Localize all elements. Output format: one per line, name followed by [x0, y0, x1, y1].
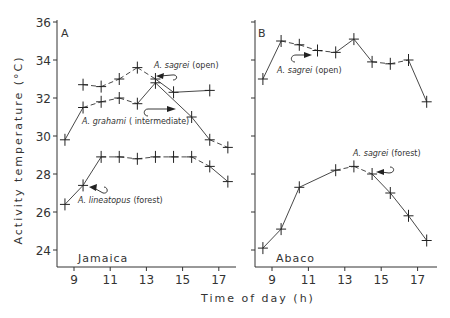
series-segment	[281, 187, 299, 229]
x-tick-label: 11	[301, 273, 316, 287]
annotation-b-sagrei-forest: A. sagrei(forest)	[352, 149, 421, 175]
series-segment	[83, 157, 101, 186]
arrowhead-icon	[156, 73, 164, 79]
series-segment	[354, 166, 372, 174]
panel-b-site-label: Abaco	[276, 252, 315, 265]
series-segment	[390, 193, 408, 216]
series-segment	[101, 98, 119, 102]
svg-text:A. sagrei(open): A. sagrei(open)	[153, 61, 219, 70]
series-segment	[137, 68, 155, 79]
series-a-sagrei-forest	[258, 160, 432, 254]
annotation-a-lineatopus: A. lineatopus(forest)	[77, 184, 163, 205]
panel-b-letter: B	[258, 27, 266, 40]
series-segment	[210, 140, 228, 148]
series-segment	[390, 60, 408, 64]
x-tick-label: 13	[337, 273, 352, 287]
arrow-icon	[144, 109, 170, 116]
series-segment	[174, 90, 210, 92]
arrowhead-icon	[376, 169, 384, 175]
y-axis-title: Activity temperature (°C)	[12, 55, 25, 244]
series-segment	[336, 166, 354, 170]
svg-text:A. sagrei(forest): A. sagrei(forest)	[352, 149, 421, 158]
y-tick-label: 26	[36, 206, 51, 220]
y-tick-label: 32	[36, 92, 51, 106]
panel-a-jamaica: 24262830323436911131517 A Jamaica A. sag…	[36, 16, 236, 288]
series-segment	[299, 170, 335, 187]
series-segment	[336, 39, 354, 52]
activity-temperature-chart: Activity temperature (°C) Time of day (h…	[0, 0, 450, 318]
x-tick-label: 17	[410, 273, 425, 287]
arrow-icon	[291, 55, 306, 62]
arrowhead-icon	[167, 106, 176, 112]
annotation-b-sagrei-open: A. sagrei(open)	[276, 52, 342, 75]
arrowhead-icon	[89, 184, 97, 191]
series-segment	[263, 229, 281, 248]
y-tick-label: 28	[36, 168, 51, 182]
y-tick-label: 30	[36, 130, 51, 144]
series-segment	[83, 102, 101, 108]
x-tick-label: 9	[268, 273, 276, 287]
series-segment	[101, 79, 119, 87]
panel-a-series	[60, 62, 233, 211]
series-segment	[409, 216, 427, 241]
y-tick-label: 24	[36, 244, 51, 258]
y-tick-label: 36	[36, 16, 51, 30]
series-segment	[65, 108, 83, 140]
series-a-grahami-intermediate	[60, 77, 233, 154]
x-axis-title: Time of day (h)	[200, 292, 315, 305]
series-segment	[372, 174, 390, 193]
arrowhead-icon	[304, 52, 312, 58]
y-tick-label: 34	[36, 54, 51, 68]
panel-a-axes: 24262830323436911131517	[36, 16, 236, 288]
series-segment	[299, 45, 317, 51]
series-segment	[119, 98, 137, 104]
x-tick-label: 15	[175, 273, 190, 287]
x-tick-label: 17	[211, 273, 226, 287]
annotation-a-sagrei-open: A. sagrei(open)	[153, 61, 219, 80]
panel-a-site-label: Jamaica	[77, 252, 128, 265]
series-segment	[137, 83, 155, 104]
x-tick-label: 11	[103, 273, 118, 287]
series-segment	[210, 166, 228, 181]
x-tick-label: 9	[70, 273, 78, 287]
svg-text:A. grahami( intermediate): A. grahami( intermediate)	[81, 117, 189, 126]
svg-text:A. sagrei(open): A. sagrei(open)	[276, 66, 342, 75]
series-segment	[409, 60, 427, 102]
panel-a-letter: A	[61, 27, 69, 40]
series-segment	[192, 157, 210, 167]
x-tick-label: 13	[139, 273, 154, 287]
panel-b-abaco: 911131517 B Abaco A. sagrei(open) A. sag…	[251, 20, 437, 287]
x-tick-label: 15	[374, 273, 389, 287]
series-segment	[192, 117, 210, 140]
svg-text:A. lineatopus(forest): A. lineatopus(forest)	[77, 196, 163, 205]
annotation-a-grahami: A. grahami( intermediate)	[81, 106, 189, 126]
series-segment	[281, 41, 299, 45]
series-segment	[354, 39, 372, 62]
series-segment	[119, 68, 137, 79]
